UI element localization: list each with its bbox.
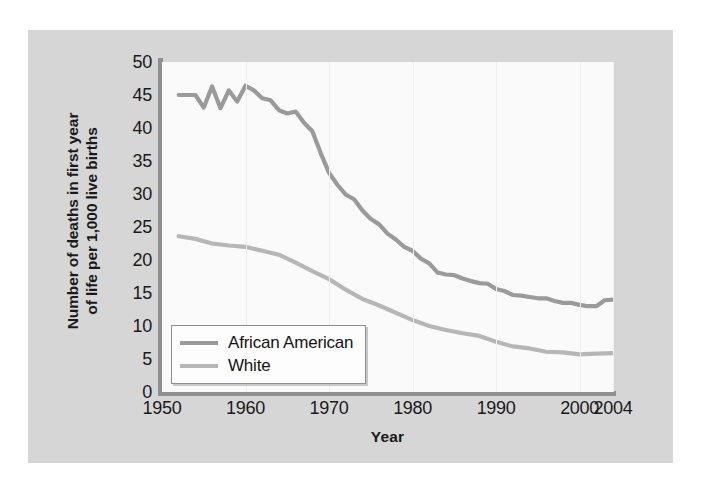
series-line xyxy=(179,86,613,306)
y-tick-label: 20 xyxy=(133,250,152,271)
y-axis-tick-labels: 05101520253035404550 xyxy=(112,62,156,392)
x-tick-label: 1970 xyxy=(310,398,349,419)
y-tick-label: 40 xyxy=(133,118,152,139)
legend-swatch-icon xyxy=(180,364,218,368)
x-tick-label: 1980 xyxy=(393,398,432,419)
legend-label: African American xyxy=(228,333,353,353)
y-tick-label: 35 xyxy=(133,151,152,172)
y-tick-label: 25 xyxy=(133,217,152,238)
y-tick-label: 45 xyxy=(133,85,152,106)
grid-line xyxy=(613,62,614,392)
y-axis-title: Number of deaths in first year of life p… xyxy=(46,46,120,396)
legend-label: White xyxy=(228,356,270,376)
legend-item: African American xyxy=(180,331,353,354)
y-axis-title-line-1: Number of deaths in first year xyxy=(64,113,83,330)
x-tick-label: 1950 xyxy=(143,398,182,419)
y-tick-label: 15 xyxy=(133,283,152,304)
y-axis-title-line-2: of life per 1,000 live births xyxy=(83,113,102,330)
y-tick-label: 30 xyxy=(133,184,152,205)
x-tick-label: 1990 xyxy=(477,398,516,419)
grid-line xyxy=(496,62,497,392)
y-tick-label: 5 xyxy=(142,349,152,370)
y-tick-label: 10 xyxy=(133,316,152,337)
legend-item: White xyxy=(180,354,353,377)
x-axis-tick-labels: 1950196019701980199020002004 xyxy=(162,398,613,424)
x-tick-label: 1960 xyxy=(226,398,265,419)
x-tick-label: 2004 xyxy=(594,398,633,419)
legend-swatch-icon xyxy=(180,341,218,345)
y-tick-label: 50 xyxy=(133,52,152,73)
grid-line xyxy=(580,62,581,392)
grid-line xyxy=(413,62,414,392)
x-axis-title: Year xyxy=(162,428,613,446)
chart-figure: Number of deaths in first year of life p… xyxy=(0,0,705,488)
chart-legend: African AmericanWhite xyxy=(171,325,366,384)
